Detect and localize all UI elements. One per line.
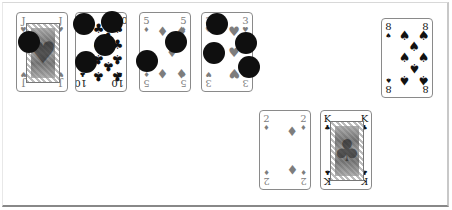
game-token[interactable]: [165, 31, 187, 53]
card-rank: 8: [384, 22, 393, 32]
card-two-diamonds[interactable]: 2♦2♦2♦2♦♦♦: [259, 110, 311, 190]
spades-icon: ♠: [417, 74, 430, 87]
game-token[interactable]: [94, 34, 116, 56]
diamonds-icon: ♦: [262, 168, 271, 176]
game-token[interactable]: [101, 11, 123, 33]
diamonds-icon: ♦: [156, 67, 169, 80]
clubs-icon: ♣: [92, 70, 105, 83]
diamonds-icon: ♦: [142, 26, 151, 34]
clubs-icon: ♣: [331, 122, 363, 180]
game-token[interactable]: [73, 13, 95, 35]
game-token[interactable]: [238, 56, 260, 78]
card-rank: 2: [262, 114, 271, 124]
diamonds-icon: ♦: [286, 163, 299, 176]
card-index: 2♦: [262, 114, 271, 132]
card-rank: 5: [142, 16, 151, 26]
game-token[interactable]: [75, 51, 97, 73]
card-king-clubs[interactable]: K♣K♣K♣K♣♣: [320, 110, 372, 190]
card-index: 2♦: [299, 114, 308, 132]
game-token[interactable]: [18, 31, 40, 53]
game-token[interactable]: [235, 32, 257, 54]
card-rank: 2: [299, 114, 308, 124]
spades-icon: ♠: [384, 76, 393, 84]
card-rank: 10: [78, 78, 87, 88]
diamonds-icon: ♦: [299, 168, 308, 176]
court-figure: ♣: [330, 121, 364, 181]
card-index: 5♦: [142, 70, 151, 88]
spades-icon: ♠: [384, 32, 393, 40]
game-token[interactable]: [203, 42, 225, 64]
hearts-icon: ♥: [204, 70, 213, 78]
card-index: 8♠: [384, 22, 393, 40]
diamonds-icon: ♦: [175, 67, 188, 80]
card-rank: 3: [241, 78, 250, 88]
card-rank: 3: [241, 16, 250, 26]
card-rank: 2: [262, 176, 271, 186]
diamonds-icon: ♦: [286, 125, 299, 138]
game-token[interactable]: [136, 50, 158, 72]
spades-icon: ♠: [398, 74, 411, 87]
card-rank: 5: [142, 78, 151, 88]
card-eight-spades[interactable]: 8♠8♠8♠8♠♠♠♠♠♠♠♠♠: [381, 18, 433, 98]
card-rank: 3: [204, 78, 213, 88]
card-index: 5♦: [142, 16, 151, 34]
card-index: 2♦: [262, 168, 271, 186]
card-index: 8♠: [384, 76, 393, 94]
card-rank: 2: [299, 176, 308, 186]
diamonds-icon: ♦: [262, 124, 271, 132]
card-index: 3♥: [204, 70, 213, 88]
card-rank: 8: [384, 84, 393, 94]
card-index: 2♦: [299, 168, 308, 186]
game-token[interactable]: [206, 13, 228, 35]
clubs-icon: ♣: [111, 70, 124, 83]
diamonds-icon: ♦: [299, 124, 308, 132]
